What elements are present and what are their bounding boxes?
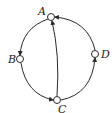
- label-b: B: [7, 53, 16, 66]
- label-c: C: [58, 103, 67, 113]
- label-a: A: [37, 5, 46, 18]
- edge-c-to-a: [52, 21, 58, 96]
- edge-b-to-c: [21, 63, 53, 100]
- graph-diagram: A B C D: [0, 0, 112, 113]
- node-a: [48, 14, 55, 21]
- node-b: [17, 56, 24, 63]
- edge-c-to-d: [61, 58, 95, 100]
- edge-d-to-a: [55, 17, 95, 50]
- label-d: D: [100, 48, 110, 61]
- edge-a-to-b: [20, 19, 48, 55]
- node-d: [92, 51, 99, 58]
